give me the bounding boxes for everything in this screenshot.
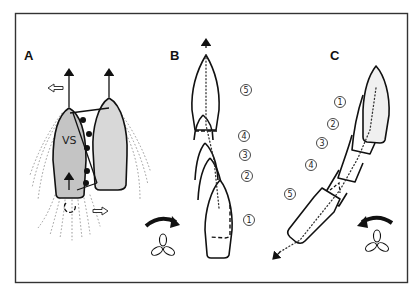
step-numbers-c: 1 2 3 4 5 — [285, 97, 346, 200]
panel-label-a: A — [24, 48, 34, 63]
svg-text:2: 2 — [331, 120, 336, 129]
vessel-label-vs: VS — [62, 134, 77, 147]
svg-text:1: 1 — [247, 216, 252, 225]
boat-right — [93, 98, 127, 190]
svg-text:1: 1 — [338, 98, 343, 107]
panel-b: B 5 4 3 2 1 — [146, 42, 255, 258]
svg-text:5: 5 — [288, 190, 293, 199]
boat-c-pos-3 — [338, 135, 363, 182]
panel-a: A — [24, 48, 150, 240]
svg-text:2: 2 — [245, 172, 250, 181]
hollow-arrow-left-icon — [48, 84, 63, 92]
hollow-arrow-right-icon — [93, 207, 108, 215]
rotation-circle-icon — [64, 203, 75, 212]
boat-c-pos-5 — [288, 188, 340, 243]
panel-c: C 1 2 3 4 5 — [275, 48, 392, 257]
track-arrow-c — [275, 252, 280, 257]
svg-text:3: 3 — [243, 151, 248, 160]
panel-label-b: B — [170, 48, 179, 63]
panel-label-c: C — [330, 48, 340, 63]
propeller-counterclockwise-icon — [357, 216, 392, 253]
svg-text:5: 5 — [244, 86, 249, 95]
boat-b-pos-1 — [205, 180, 232, 258]
svg-text:4: 4 — [242, 132, 247, 141]
propeller-clockwise-icon — [146, 216, 180, 257]
boat-c-pos-1 — [363, 66, 389, 143]
step-numbers-b: 5 4 3 2 1 — [239, 85, 255, 226]
svg-text:3: 3 — [320, 139, 325, 148]
diagram-canvas: A — [0, 0, 420, 295]
svg-text:4: 4 — [309, 161, 314, 170]
